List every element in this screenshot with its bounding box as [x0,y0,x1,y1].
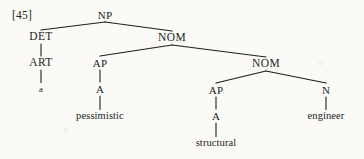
tree-branch-np-det [41,22,105,30]
tree-node-np: NP [98,10,113,21]
figure-canvas: [45] NPDETNOMARTAPNOMAaAPNpessimisticAen… [0,0,364,159]
tree-branch-np-nom1 [105,22,172,31]
tree-branch-nom1-ap1 [100,45,172,56]
tree-branch-nom2-ap2 [216,71,266,83]
tree-branch-nom2-n [266,71,326,83]
tree-terminal-pessim: pessimistic [76,111,124,122]
tree-node-a1: A [96,84,104,95]
tree-node-nom2: NOM [252,58,280,70]
tree-terminal-a-word: a [39,85,43,94]
tree-node-nom1: NOM [158,32,186,44]
tree-node-det: DET [29,31,53,43]
example-number-label: [45] [12,9,32,21]
tree-node-ap2: AP [209,85,224,96]
tree-edges [0,0,364,159]
tree-node-a2: A [212,111,220,122]
tree-terminal-engineer: engineer [308,111,345,122]
tree-branch-nom1-nom2 [172,45,266,57]
tree-node-ap1: AP [93,58,108,69]
tree-node-n: N [322,85,330,96]
tree-node-art: ART [29,57,53,69]
tree-terminal-structural: structural [196,138,237,149]
